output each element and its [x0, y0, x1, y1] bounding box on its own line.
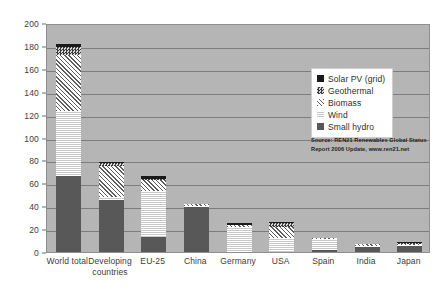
bar-segment-biomass[interactable] [141, 180, 166, 191]
legend-label: Small hydro [328, 122, 374, 132]
bar-segment-wind[interactable] [141, 191, 166, 237]
bar-segment-smallhydro[interactable] [397, 246, 422, 252]
source-annotation: Source: REN21 Renewables Global Status R… [311, 136, 438, 154]
y-tick-label: 140 [24, 88, 39, 98]
legend-swatch-icon [317, 75, 324, 82]
x-axis: World totalDeveloping countriesEU-25Chin… [46, 256, 430, 298]
legend-label: Biomass [328, 98, 361, 108]
bar-segment-biomass[interactable] [56, 55, 81, 111]
bar-stack[interactable] [99, 162, 124, 252]
bar-segment-wind[interactable] [312, 239, 337, 250]
bar-stack[interactable] [355, 244, 380, 252]
legend-swatch-icon [317, 99, 324, 106]
bar-segment-smallhydro[interactable] [56, 176, 81, 252]
y-tick-label: 180 [24, 42, 39, 52]
legend-label: Geothermal [328, 86, 373, 96]
bar-stack[interactable] [184, 204, 209, 252]
chart-legend: Solar PV (grid)GeothermalBiomassWindSmal… [311, 68, 393, 138]
bar-segment-smallhydro[interactable] [141, 237, 166, 252]
y-tick-label: 100 [24, 134, 39, 144]
legend-item: Geothermal [317, 85, 385, 96]
legend-item: Biomass [317, 97, 385, 108]
y-tick-label: 0 [34, 248, 39, 258]
bar-segment-geothermal[interactable] [56, 47, 81, 55]
bar-stack[interactable] [227, 223, 252, 252]
bar-segment-wind[interactable] [56, 111, 81, 176]
legend-item: Solar PV (grid) [317, 73, 385, 84]
legend-label: Solar PV (grid) [328, 74, 385, 84]
y-tick-label: 160 [24, 65, 39, 75]
x-tick-label: Japan [381, 256, 437, 267]
bar-stack[interactable] [312, 238, 337, 252]
bar-stack[interactable] [56, 44, 81, 252]
y-axis: 020406080100120140160180200 [0, 24, 46, 253]
y-tick-label: 200 [24, 19, 39, 29]
bar-segment-smallhydro[interactable] [184, 207, 209, 252]
bar-stack[interactable] [397, 242, 422, 252]
legend-item: Wind [317, 109, 385, 120]
chart-container: 020406080100120140160180200 Solar PV (gr… [0, 0, 438, 298]
bar-segment-wind[interactable] [269, 238, 294, 252]
bar-stack[interactable] [141, 176, 166, 252]
bar-segment-biomass[interactable] [269, 227, 294, 238]
y-tick-label: 80 [29, 156, 39, 166]
source-line-2: Report 2006 Update, www.ren21.net [311, 145, 438, 154]
source-line-1: Source: REN21 Renewables Global Status [311, 136, 438, 145]
y-tick-label: 120 [24, 111, 39, 121]
plot-area: Solar PV (grid)GeothermalBiomassWindSmal… [46, 24, 430, 253]
legend-item: Small hydro [317, 121, 385, 132]
bar-segment-biomass[interactable] [99, 166, 124, 197]
bar-segment-smallhydro[interactable] [99, 200, 124, 252]
legend-label: Wind [328, 110, 348, 120]
bar-segment-wind[interactable] [227, 227, 252, 252]
legend-swatch-icon [317, 111, 324, 118]
bar-stack[interactable] [269, 222, 294, 252]
y-tick-label: 40 [29, 202, 39, 212]
legend-swatch-icon [317, 123, 324, 130]
bar-segment-smallhydro[interactable] [312, 250, 337, 252]
y-tick-label: 20 [29, 225, 39, 235]
legend-swatch-icon [317, 87, 324, 94]
y-tick-label: 60 [29, 179, 39, 189]
bar-segment-smallhydro[interactable] [355, 247, 380, 252]
